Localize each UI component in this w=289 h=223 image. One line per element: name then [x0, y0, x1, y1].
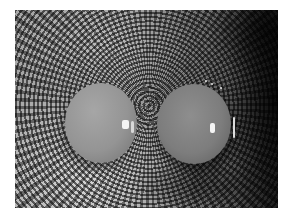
- bowl-shadow: [15, 10, 278, 208]
- left-egg-highlight-secondary: [131, 121, 134, 133]
- surface-speck: [205, 80, 207, 82]
- surface-speck: [211, 83, 213, 85]
- right-egg-rim-reflection: [233, 117, 235, 138]
- right-egg: [157, 84, 231, 164]
- photo: [15, 10, 278, 208]
- right-egg-highlight: [210, 123, 215, 133]
- surface-speck: [220, 87, 222, 89]
- left-egg-highlight: [122, 120, 129, 129]
